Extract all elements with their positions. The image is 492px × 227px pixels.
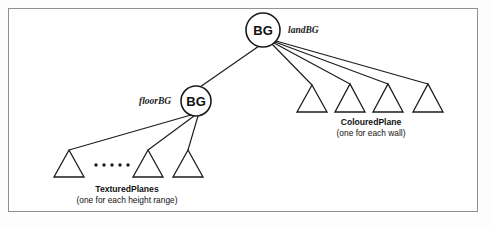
colouredplane-group-triangle-3: [373, 84, 403, 112]
root-to-colouredplane-4: [276, 41, 428, 84]
root-node-label: BG: [253, 23, 273, 38]
texturedplanes-group-ellipsis-dot-3: [110, 163, 113, 166]
texturedplanes-group-title: TexturedPlanes: [95, 184, 159, 194]
floor-to-texturedplane-1: [69, 115, 191, 150]
scene-graph-diagram: BGlandBGBGfloorBG ColouredPlane(one for …: [0, 0, 492, 227]
texturedplanes-group-ellipsis-dot-2: [102, 163, 105, 166]
texturedplanes-group-triangle-2: [133, 150, 163, 177]
root-to-colouredplane-2: [274, 43, 350, 84]
floor-node-annotation: floorBG: [139, 96, 171, 106]
texturedplanes-group-ellipsis-dot-4: [118, 163, 121, 166]
figure-root: BGlandBGBGfloorBG ColouredPlane(one for …: [0, 0, 492, 227]
floor-node-label: BG: [186, 94, 206, 109]
colouredplane-group-subtitle: (one for each wall): [337, 128, 406, 138]
colouredplane-group-triangle-1: [297, 85, 327, 112]
texturedplanes-group-ellipsis-dot-5: [126, 163, 129, 166]
texturedplanes-group-triangle-1: [54, 150, 84, 177]
colouredplane-group-title: ColouredPlane: [341, 117, 402, 127]
root-to-floor: [200, 46, 259, 87]
colouredplane-group-triangle-2: [335, 84, 365, 112]
root-to-colouredplane-1: [272, 44, 312, 85]
captions-layer: ColouredPlane(one for each wall)Textured…: [76, 117, 405, 205]
floor-to-texturedplane-3: [188, 116, 198, 150]
texturedplanes-group-subtitle: (one for each height range): [76, 195, 177, 205]
colouredplane-group-triangle-4: [413, 84, 443, 112]
texturedplanes-group-ellipsis-dot-1: [94, 163, 97, 166]
root-to-colouredplane-3: [275, 42, 388, 84]
texturedplanes-group-triangle-3: [173, 150, 203, 177]
root-node-annotation: landBG: [288, 25, 319, 35]
